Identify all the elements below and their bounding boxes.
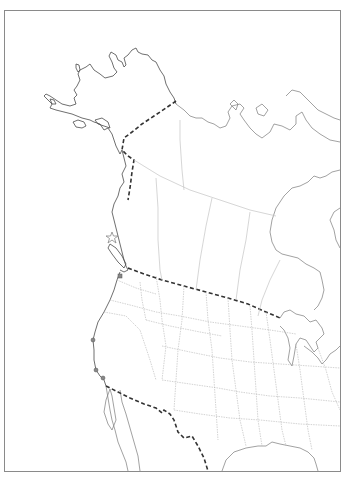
province-borders [134, 120, 280, 316]
dot-marker[interactable] [101, 376, 105, 380]
star-marker[interactable] [106, 232, 118, 243]
gulf-coastline [222, 442, 318, 471]
alaska-islands [50, 64, 110, 128]
us-canada-border [128, 268, 280, 318]
alaska-coastline [44, 48, 176, 154]
outline-map[interactable] [0, 0, 346, 477]
great-lakes [280, 310, 340, 366]
state-borders [104, 276, 340, 450]
baja-california [104, 386, 140, 471]
hudson-bay-coastline [270, 170, 340, 310]
dot-marker[interactable] [91, 338, 95, 342]
arctic-islands [230, 90, 340, 120]
dot-marker[interactable] [94, 368, 98, 372]
square-marker[interactable] [118, 274, 122, 278]
arctic-coastline [176, 104, 340, 142]
alaska-canada-border [122, 101, 176, 200]
